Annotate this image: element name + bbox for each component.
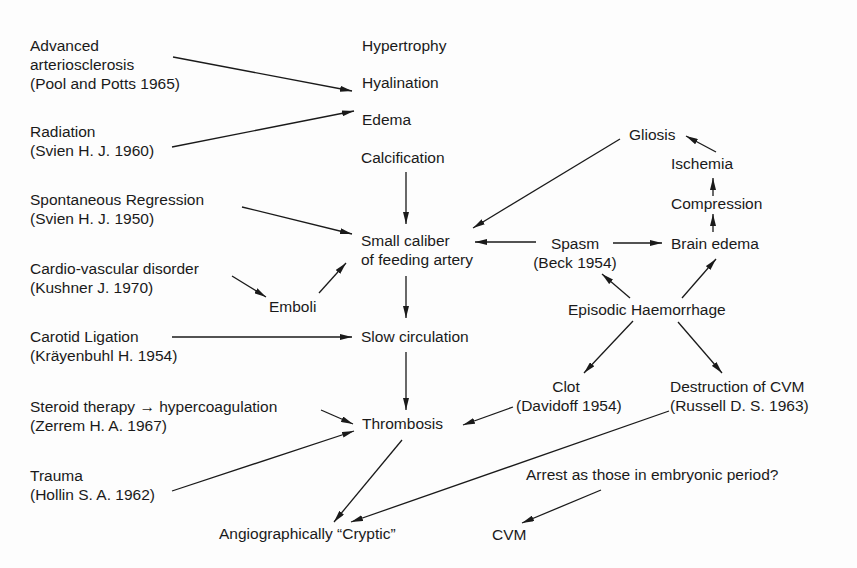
cause-label: Trauma [30,466,155,485]
pathogenesis-diagram: Advanced arteriosclerosis (Pool and Pott… [0,0,857,568]
node-hyalination: Hyalination [362,73,439,92]
arrow-cardio-to-emboli [232,276,266,297]
node-arrest-embryonic: Arrest as those in embryonic period? [526,465,778,484]
arrow-radiation-to-edema [172,111,354,147]
node-label: Small caliber [361,231,473,250]
node-small-caliber-feeding-artery: Small caliber of feeding artery [361,231,473,269]
arrow-haemorrhage-to-destruction [678,322,722,373]
node-reference: (Russell D. S. 1963) [670,396,809,415]
node-brain-edema: Brain edema [671,234,759,253]
cause-reference: (Svien H. J. 1960) [30,141,154,160]
arrow-steroid-to-thrombosis [321,410,353,424]
node-slow-circulation: Slow circulation [361,327,469,346]
node-clot: Clot (Davidoff 1954) [516,377,616,415]
arrow-arrest-to-cvm [522,490,601,523]
arrow-haemorrhage-to-spasm [602,274,630,298]
cause-label: Steroid therapy → hypercoagulation [30,397,277,416]
node-edema: Edema [362,110,411,129]
cause-steroid-therapy: Steroid therapy → hypercoagulation (Zerr… [30,397,277,435]
cause-label: arteriosclerosis [30,55,180,74]
cause-label: Advanced [30,36,180,55]
node-calcification: Calcification [361,148,445,167]
node-compression: Compression [671,194,762,213]
node-label: of feeding artery [361,250,473,269]
node-angiographically-cryptic: Angiographically “Cryptic” [219,524,396,543]
node-destruction-of-cvm: Destruction of CVM (Russell D. S. 1963) [670,377,809,415]
node-hypertrophy: Hypertrophy [362,36,446,55]
cause-reference: (Svien H. J. 1950) [30,209,204,228]
node-thrombosis: Thrombosis [362,414,443,433]
cause-reference: (Kräyenbuhl H. 1954) [30,346,177,365]
node-emboli: Emboli [269,297,316,316]
cause-reference: (Zerrem H. A. 1967) [30,416,277,435]
cause-reference: (Pool and Potts 1965) [30,74,180,93]
arrow-ischemia-to-gliosis [686,136,716,152]
cause-arteriosclerosis: Advanced arteriosclerosis (Pool and Pott… [30,36,180,93]
arrow-gliosis-to-small-caliber [473,139,620,228]
cause-label: Cardio-vascular disorder [30,259,199,278]
cause-label: Spontaneous Regression [30,190,204,209]
node-spasm: Spasm (Beck 1954) [528,234,622,272]
arrow-emboli-to-small-caliber [319,263,346,293]
cause-radiation: Radiation (Svien H. J. 1960) [30,122,154,160]
arrow-clot-to-thrombosis [463,407,513,425]
node-reference: (Beck 1954) [528,253,622,272]
cause-trauma: Trauma (Hollin S. A. 1962) [30,466,155,504]
node-reference: (Davidoff 1954) [516,396,616,415]
arrow-trauma-to-thrombosis [172,431,354,491]
node-episodic-haemorrhage: Episodic Haemorrhage [568,300,726,319]
arrow-haemorrhage-to-clot [584,321,633,373]
arrow-regression-to-small-caliber [242,207,352,234]
cause-reference: (Kushner J. 1970) [30,278,199,297]
arrow-arteriosclerosis-to-hyalination [173,57,352,91]
node-label: Spasm [528,234,622,253]
cause-carotid-ligation: Carotid Ligation (Kräyenbuhl H. 1954) [30,327,177,365]
cause-label: Carotid Ligation [30,327,177,346]
arrow-haemorrhage-to-brain-edema [682,259,716,298]
cause-cardio-vascular: Cardio-vascular disorder (Kushner J. 197… [30,259,199,297]
node-label: Destruction of CVM [670,377,809,396]
cause-label: Radiation [30,122,154,141]
node-gliosis: Gliosis [629,125,676,144]
arrow-thrombosis-to-cryptic [334,440,402,522]
node-cvm: CVM [492,525,526,544]
node-ischemia: Ischemia [671,154,733,173]
node-label: Clot [516,377,616,396]
cause-reference: (Hollin S. A. 1962) [30,485,155,504]
cause-spontaneous-regression: Spontaneous Regression (Svien H. J. 1950… [30,190,204,228]
